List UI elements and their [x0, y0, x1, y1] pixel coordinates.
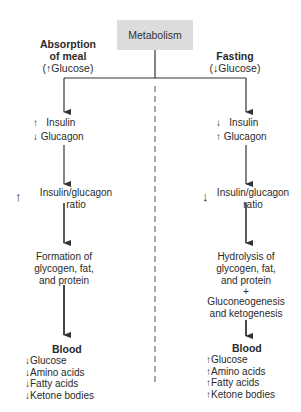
left-glucagon: ↓ Glucagon: [33, 131, 84, 143]
right-blood-list: ↑Glucose ↑Amino acids ↑Fatty acids ↑Keto…: [206, 354, 275, 400]
list-item: ↓Ketone bodies: [25, 390, 94, 402]
list-item: ↓Amino acids: [25, 367, 94, 379]
list-item: ↓Fatty acids: [25, 378, 94, 390]
right-insulin: ↓ Insulin: [216, 117, 258, 129]
list-item: ↑Amino acids: [206, 366, 275, 378]
arrow-down-icon: ↓: [216, 117, 221, 128]
arrow-up-icon: ↑: [33, 117, 38, 128]
absorption-heading-line2: of meal: [38, 50, 98, 62]
left-process: Formation of glycogen, fat, and protein: [14, 251, 114, 287]
arrow-up-icon: ↑: [15, 189, 22, 204]
right-blood-title: Blood: [232, 342, 262, 354]
fasting-condition: (↓Glucose): [205, 62, 265, 74]
arrow-down-icon: ↓: [33, 131, 38, 142]
right-process: Hydrolysis of glycogen, fat, and protein…: [196, 251, 296, 320]
list-item: ↓Glucose: [25, 355, 94, 367]
left-blood-title: Blood: [52, 343, 82, 355]
list-item: ↑Fatty acids: [206, 377, 275, 389]
left-insulin: ↑ Insulin: [33, 117, 75, 129]
metabolism-label: Metabolism: [128, 29, 182, 41]
right-ratio: ↓ Insulin/glucagon ratio: [192, 187, 301, 211]
absorption-heading: Absorption of meal (↑Glucose): [38, 38, 98, 74]
list-item: ↑Glucose: [206, 354, 275, 366]
absorption-heading-line1: Absorption: [38, 38, 98, 50]
left-blood-list: ↓Glucose ↓Amino acids ↓Fatty acids ↓Keto…: [25, 355, 94, 401]
list-item: ↑Ketone bodies: [206, 389, 275, 401]
arrow-down-icon: ↓: [202, 189, 209, 204]
left-ratio: ↑ Insulin/glucagon ratio: [15, 187, 125, 211]
fasting-heading: Fasting (↓Glucose): [205, 50, 265, 74]
arrow-up-icon: ↑: [216, 131, 221, 142]
absorption-condition: (↑Glucose): [38, 62, 98, 74]
metabolism-root-box: Metabolism: [117, 20, 193, 50]
fasting-heading-line1: Fasting: [205, 50, 265, 62]
right-glucagon: ↑ Glucagon: [216, 131, 267, 143]
